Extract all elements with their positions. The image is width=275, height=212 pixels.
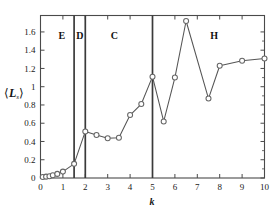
data-point-marker xyxy=(172,75,177,80)
data-point-marker xyxy=(206,96,211,101)
x-tick-label: 6 xyxy=(173,182,178,192)
series-line xyxy=(43,21,265,177)
y-tick-label: 0.4 xyxy=(24,137,36,147)
y-tick-label: 0 xyxy=(31,173,36,183)
region-label-c: C xyxy=(111,30,118,41)
x-tick-label: 3 xyxy=(105,182,110,192)
y-tick-label: 1.4 xyxy=(24,45,36,55)
y-tick-label: 0.2 xyxy=(24,155,35,165)
data-point-marker xyxy=(72,161,77,166)
y-tick-label: 1.6 xyxy=(24,27,36,37)
y-axis-title-text: ⟨Ls⟩ xyxy=(4,86,24,101)
x-tick-label: 7 xyxy=(195,182,200,192)
data-point-marker xyxy=(150,74,155,79)
region-label-e: E xyxy=(58,30,65,41)
data-point-marker xyxy=(217,63,222,68)
region-label-d: D xyxy=(76,30,83,41)
data-point-marker xyxy=(184,18,189,23)
region-labels: EDCH xyxy=(58,30,218,41)
data-point-marker xyxy=(105,136,110,141)
x-tick-label: 0 xyxy=(38,182,43,192)
data-point-marker xyxy=(94,133,99,138)
data-point-marker xyxy=(240,58,245,63)
y-axis-title: ⟨Ls⟩ xyxy=(4,86,24,101)
y-tick-label: 1 xyxy=(31,82,36,92)
data-point-marker xyxy=(116,135,121,140)
x-tick-label: 8 xyxy=(217,182,222,192)
x-tick-label: 10 xyxy=(260,182,270,192)
data-point-marker xyxy=(262,56,267,61)
data-point-marker xyxy=(55,171,60,176)
x-tick-label: 5 xyxy=(150,182,155,192)
data-point-marker xyxy=(60,169,65,174)
data-point-marker xyxy=(161,119,166,124)
y-tick-label: 0.8 xyxy=(24,100,36,110)
data-point-marker xyxy=(139,102,144,107)
y-tick-label: 1.2 xyxy=(24,64,35,74)
data-point-marker xyxy=(83,129,88,134)
x-tick-label: 4 xyxy=(128,182,133,192)
y-tick-label: 0.6 xyxy=(24,118,36,128)
x-tick-label: 9 xyxy=(240,182,245,192)
region-label-h: H xyxy=(210,30,218,41)
chart-canvas: 00.20.40.60.811.21.41.6 012345678910 EDC… xyxy=(0,0,275,212)
chart-figure: 00.20.40.60.811.21.41.6 012345678910 EDC… xyxy=(0,0,275,212)
y-axis: 00.20.40.60.811.21.41.6 xyxy=(24,27,264,183)
x-axis-title-text: k xyxy=(150,196,155,207)
data-point-marker xyxy=(128,113,133,118)
x-tick-label: 2 xyxy=(83,182,88,192)
x-tick-label: 1 xyxy=(61,182,66,192)
